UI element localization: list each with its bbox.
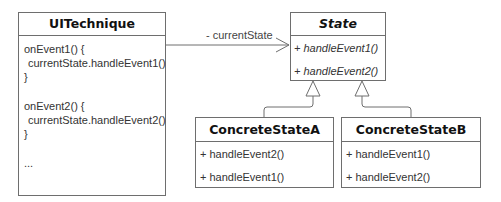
code-line: currentState.handleEvent1() — [24, 57, 166, 69]
method: + handleEvent2() — [200, 148, 284, 160]
method: + handleEvent1() — [346, 148, 430, 160]
code-line: onEvent2() { — [24, 100, 85, 112]
class-name: UITechnique — [19, 13, 165, 36]
class-name: ConcreteStateB — [342, 118, 480, 142]
inheritance-triangle-icon — [355, 81, 369, 96]
generalization-line-b — [362, 96, 411, 117]
inheritance-triangle-icon — [306, 81, 320, 96]
method: + handleEvent1() — [294, 42, 378, 54]
method: + handleEvent2() — [294, 65, 378, 77]
class-concrete-state-a[interactable]: ConcreteStateA + handleEvent2() + handle… — [195, 117, 334, 188]
code-line: } — [24, 71, 28, 83]
code-line: ... — [24, 157, 33, 169]
class-name: ConcreteStateA — [196, 118, 333, 142]
association-label: - currentState — [206, 29, 273, 41]
class-concrete-state-b[interactable]: ConcreteStateB + handleEvent1() + handle… — [341, 117, 481, 188]
method: + handleEvent1() — [200, 171, 284, 183]
code-line: onEvent1() { — [24, 43, 85, 55]
class-state[interactable]: State + handleEvent1() + handleEvent2() — [290, 12, 386, 81]
class-name: State — [291, 13, 385, 36]
method: + handleEvent2() — [346, 171, 430, 183]
class-uitechnique[interactable]: UITechnique onEvent1() { currentState.ha… — [18, 12, 166, 196]
generalization-line-a — [264, 96, 313, 117]
code-line: } — [24, 128, 28, 140]
code-line: currentState.handleEvent2() — [24, 114, 166, 126]
